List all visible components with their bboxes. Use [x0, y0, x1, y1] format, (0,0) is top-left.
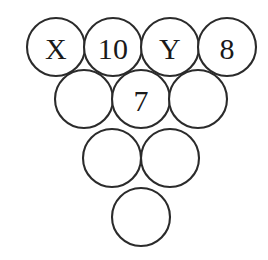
circle-r2c3[interactable]: [169, 70, 227, 128]
circle-r3c1[interactable]: [83, 129, 141, 187]
circle-label-r1c2: 10: [98, 32, 128, 65]
circle-label-r1c3: Y: [159, 32, 181, 65]
circle-label-r2c2: 7: [133, 84, 148, 117]
circle-r3c2[interactable]: [141, 129, 199, 187]
circle-label-r1c1: X: [45, 32, 67, 65]
circle-r2c1[interactable]: [55, 70, 113, 128]
pyramid-row-2: 7: [55, 70, 227, 128]
pyramid-row-4: [112, 188, 170, 246]
pyramid-svg-canvas: X 10 Y 8 7: [0, 0, 268, 260]
circle-pyramid-figure: X 10 Y 8 7: [0, 0, 268, 260]
circle-label-r1c4: 8: [219, 32, 234, 65]
pyramid-row-1: X 10 Y 8: [27, 18, 256, 76]
pyramid-row-3: [83, 129, 199, 187]
circle-r4c1[interactable]: [112, 188, 170, 246]
